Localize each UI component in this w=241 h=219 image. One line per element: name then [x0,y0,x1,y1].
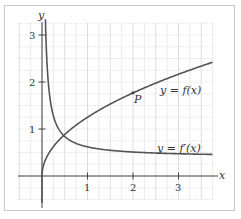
y-axis-label: y [37,9,45,22]
y-tick-label-2: 2 [29,77,35,88]
x-axis-label: x [219,169,226,182]
function-graph: x y y = f(x) y = f′(x) P 1 2 3 1 2 3 [0,0,241,219]
grid-lines [18,23,213,200]
y-tick-label-3: 3 [29,30,35,41]
x-tick-label-3: 3 [175,182,181,193]
f-prime-curve-label: y = f′(x) [156,142,201,155]
x-tick-label-2: 2 [130,182,136,193]
f-curve-label: y = f(x) [159,84,201,97]
y-tick-label-1: 1 [29,124,35,135]
x-tick-label-1: 1 [84,182,90,193]
axis-ticks [39,35,179,180]
point-p-label: P [133,93,142,106]
